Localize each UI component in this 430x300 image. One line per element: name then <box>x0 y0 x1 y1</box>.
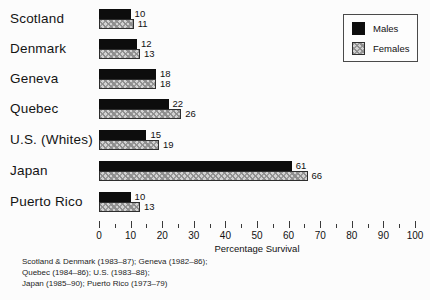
bar-value-label-males-japan: 61 <box>296 161 307 171</box>
x-axis-tick-label-90: 90 <box>367 230 399 241</box>
x-axis-tick-80 <box>352 221 353 228</box>
x-axis-tick-20 <box>162 221 163 228</box>
legend-females-swatch <box>352 42 365 55</box>
x-axis-tick-label-70: 70 <box>304 230 336 241</box>
category-label-u-s-whites: U.S. (Whites) <box>10 132 93 148</box>
bar-value-label-females-quebec: 26 <box>185 109 196 119</box>
bar-females-quebec <box>99 109 181 119</box>
x-axis-tick-label-30: 30 <box>178 230 210 241</box>
x-axis-tick-15 <box>146 224 147 228</box>
x-axis-tick-label-50: 50 <box>241 230 273 241</box>
bar-males-quebec <box>99 99 169 109</box>
x-axis-tick-75 <box>336 224 337 228</box>
legend: Males Females <box>343 14 418 62</box>
legend-item-males: Males <box>352 22 398 35</box>
legend-males-label: Males <box>373 23 398 34</box>
category-label-quebec: Quebec <box>10 101 58 117</box>
bar-females-geneva <box>99 79 156 89</box>
x-axis-tick-label-80: 80 <box>336 230 368 241</box>
x-axis-tick-45 <box>241 224 242 228</box>
x-axis-tick-label-40: 40 <box>209 230 241 241</box>
x-axis-tick-50 <box>257 221 258 228</box>
x-axis-tick-0 <box>99 221 100 228</box>
bar-value-label-females-puerto-rico: 13 <box>144 202 155 212</box>
x-axis-tick-70 <box>320 221 321 228</box>
bar-females-puerto-rico <box>99 202 140 212</box>
x-axis-tick-label-60: 60 <box>273 230 305 241</box>
bar-males-geneva <box>99 69 156 79</box>
bar-value-label-males-u-s-whites: 15 <box>150 130 161 140</box>
x-axis-tick-40 <box>225 221 226 228</box>
x-axis-tick-label-20: 20 <box>146 230 178 241</box>
x-axis-tick-95 <box>399 224 400 228</box>
category-label-geneva: Geneva <box>10 71 58 87</box>
bar-males-u-s-whites <box>99 130 146 140</box>
x-axis-tick-25 <box>178 224 179 228</box>
x-axis-title: Percentage Survival <box>99 243 415 254</box>
footnote-line-2: Quebec (1984–86); U.S. (1983–88); <box>22 267 150 278</box>
survival-chart-figure: Scotland1011Denmark1213Geneva1818Quebec2… <box>0 0 430 300</box>
x-axis-tick-10 <box>131 221 132 228</box>
bar-value-label-females-denmark: 13 <box>144 49 155 59</box>
bar-males-japan <box>99 161 292 171</box>
footnote-line-1: Scotland & Denmark (1983–87); Geneva (19… <box>22 256 207 267</box>
bar-value-label-females-japan: 66 <box>312 171 323 181</box>
bar-males-puerto-rico <box>99 192 131 202</box>
category-label-scotland: Scotland <box>10 11 64 27</box>
x-axis-tick-30 <box>194 221 195 228</box>
bar-value-label-males-quebec: 22 <box>173 99 184 109</box>
bar-value-label-females-geneva: 18 <box>160 79 171 89</box>
x-axis-tick-65 <box>304 224 305 228</box>
x-axis-tick-100 <box>415 221 416 228</box>
x-axis-tick-85 <box>368 224 369 228</box>
bar-value-label-females-u-s-whites: 19 <box>163 140 174 150</box>
x-axis-tick-60 <box>289 221 290 228</box>
legend-females-label: Females <box>373 43 409 54</box>
category-label-denmark: Denmark <box>10 41 66 57</box>
bar-males-scotland <box>99 9 131 19</box>
bar-males-denmark <box>99 39 137 49</box>
bar-females-denmark <box>99 49 140 59</box>
x-axis-tick-90 <box>383 221 384 228</box>
x-axis-tick-label-10: 10 <box>115 230 147 241</box>
bar-females-u-s-whites <box>99 140 159 150</box>
legend-males-swatch <box>352 22 365 35</box>
footnote-line-3: Japan (1985–90); Puerto Rico (1973–79) <box>22 278 167 289</box>
x-axis-tick-55 <box>273 224 274 228</box>
x-axis-tick-label-0: 0 <box>83 230 115 241</box>
legend-item-females: Females <box>352 42 409 55</box>
x-axis-tick-35 <box>210 224 211 228</box>
bar-females-scotland <box>99 19 134 29</box>
bar-value-label-females-scotland: 11 <box>138 19 148 29</box>
category-label-puerto-rico: Puerto Rico <box>10 194 83 210</box>
x-axis-tick-5 <box>115 224 116 228</box>
x-axis-tick-label-100: 100 <box>399 230 430 241</box>
bar-females-japan <box>99 171 308 181</box>
category-label-japan: Japan <box>10 163 48 179</box>
